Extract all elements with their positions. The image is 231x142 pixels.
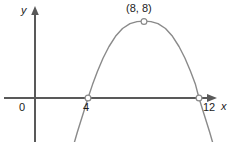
origin-label: 0 [19,102,25,113]
plot-canvas [0,0,231,142]
y-axis-label: y [21,5,27,16]
x-tick-label-4: 4 [83,102,89,113]
x-tick-label-12: 12 [203,102,215,113]
parabola-figure: 0 4 12 x y (8, 8) [0,0,231,142]
x-axis-label: x [221,101,227,112]
root-right-marker [196,95,202,101]
vertex-point-label: (8, 8) [126,3,152,14]
y-axis [31,6,39,142]
vertex-marker [141,19,147,25]
parabola-curve [75,21,213,142]
